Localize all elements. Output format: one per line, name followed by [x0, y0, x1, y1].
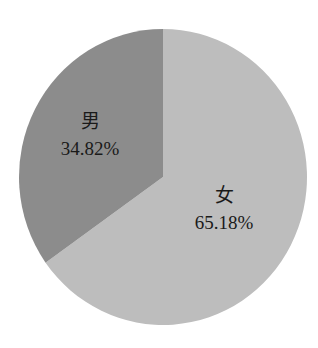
- pie-chart: 男 34.82% 女 65.18%: [0, 0, 318, 348]
- label-female-name: 女: [215, 185, 234, 206]
- label-female-percent: 65.18%: [195, 212, 254, 233]
- label-male-percent: 34.82%: [61, 138, 120, 159]
- label-male-name: 男: [81, 111, 100, 132]
